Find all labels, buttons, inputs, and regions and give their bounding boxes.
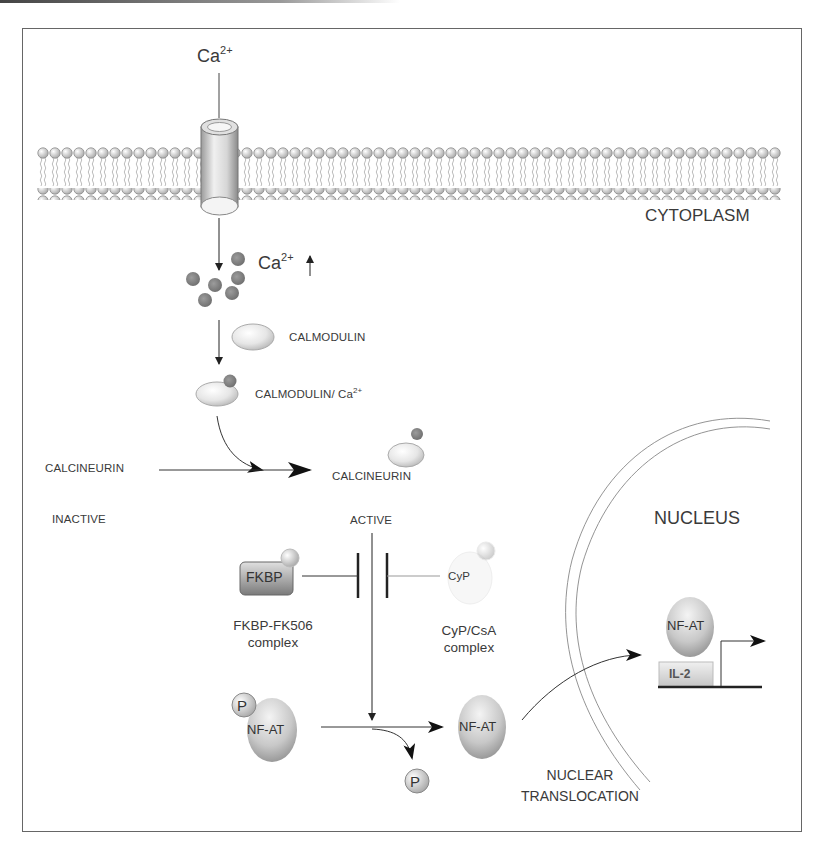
inactive-label: INACTIVE bbox=[52, 513, 106, 525]
nucleus-envelope bbox=[566, 418, 770, 790]
phosphate-released-label: P bbox=[410, 773, 420, 790]
inhibition-bars bbox=[302, 553, 440, 598]
nfat-phosphorylated-label: NF-AT bbox=[247, 722, 284, 737]
nucleus-label: NUCLEUS bbox=[654, 508, 740, 529]
activation-curve-arrow bbox=[217, 416, 262, 470]
fkbp-label: FKBP bbox=[246, 569, 283, 585]
calmodulin-ca-complex-icon bbox=[196, 375, 238, 407]
nfat-free-label: NF-AT bbox=[459, 719, 496, 734]
ca-increase-label: Ca2+ bbox=[258, 253, 294, 274]
active-label: ACTIVE bbox=[350, 514, 392, 526]
phosphate-release-arrow bbox=[372, 729, 412, 758]
calcineurin-active-label: CALCINEURIN bbox=[332, 470, 411, 482]
calcineurin-inactive-label: CALCINEURIN bbox=[45, 462, 124, 474]
calmodulin-ca-label: CALMODULIN/ Ca2+ bbox=[255, 388, 362, 400]
nfat-nuclear-label: NF-AT bbox=[667, 618, 704, 633]
calmodulin-label: CALMODULIN bbox=[289, 331, 365, 343]
calcineurin-active-icon bbox=[388, 428, 424, 467]
phosphate-attached-label: P bbox=[237, 697, 247, 714]
cyp-csa-complex-label: CyP/CsAcomplex bbox=[424, 622, 514, 656]
nuclear-translocation-arrow bbox=[522, 655, 640, 720]
ca-extracellular-label: Ca2+ bbox=[197, 46, 233, 67]
cytoplasm-label: CYTOPLASM bbox=[645, 206, 750, 226]
calmodulin-icon bbox=[232, 324, 274, 350]
calcium-channel-icon bbox=[201, 73, 238, 215]
pathway-diagram bbox=[0, 0, 822, 844]
nuclear-translocation-label: NUCLEARTRANSLOCATION bbox=[500, 765, 660, 807]
calcium-ions-cluster bbox=[186, 252, 245, 307]
lipid-bilayer bbox=[37, 147, 781, 200]
il2-label: IL-2 bbox=[669, 667, 690, 681]
cyp-label: CyP bbox=[448, 570, 470, 582]
fkbp-fk506-complex-label: FKBP-FK506complex bbox=[218, 617, 328, 651]
